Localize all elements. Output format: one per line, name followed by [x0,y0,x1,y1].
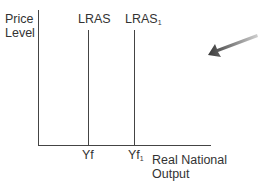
x-axis-label-line2: Output [152,167,190,181]
lras1-label: LRAS1 [125,12,162,30]
x-axis-label-line1: Real National [152,153,227,167]
yf-tick-label: Yf [82,148,94,162]
y-axis-label-line1: Price [5,12,33,26]
lras-label: LRAS [78,12,111,26]
arrow-icon [208,34,258,57]
yf1-tick-label: Yf1 [128,148,144,166]
y-axis-label-line2: Level [5,26,35,40]
